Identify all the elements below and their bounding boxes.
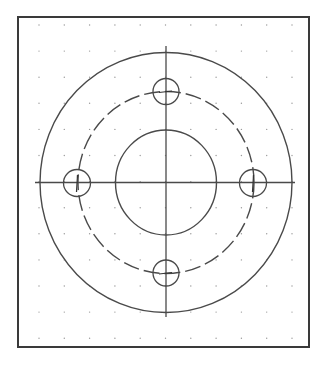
grid-dot: [291, 155, 292, 156]
grid-dot: [190, 129, 191, 130]
grid-dot: [38, 259, 39, 260]
grid-dot: [266, 24, 267, 25]
grid-dot: [64, 50, 65, 51]
grid-dot: [266, 155, 267, 156]
grid-dot: [38, 77, 39, 78]
grid-dot: [190, 285, 191, 286]
grid-dot: [190, 207, 191, 208]
grid-dot: [266, 338, 267, 339]
grid-dot: [215, 338, 216, 339]
grid-dot: [241, 311, 242, 312]
grid-dot: [190, 50, 191, 51]
grid-dot: [241, 24, 242, 25]
grid-dot: [165, 24, 166, 25]
grid-dot: [266, 285, 267, 286]
grid-dot: [291, 77, 292, 78]
grid-dot: [140, 155, 141, 156]
grid-dot: [140, 259, 141, 260]
grid-dot: [114, 103, 115, 104]
grid-dot: [89, 103, 90, 104]
grid-dot: [291, 24, 292, 25]
grid-dot: [114, 77, 115, 78]
grid-dot: [38, 233, 39, 234]
grid-dot: [241, 155, 242, 156]
grid-dot: [114, 155, 115, 156]
grid-dot: [241, 233, 242, 234]
grid-dot: [64, 233, 65, 234]
grid-dot: [64, 207, 65, 208]
grid-dot: [64, 129, 65, 130]
grid-dot: [64, 338, 65, 339]
grid-dot: [190, 338, 191, 339]
grid-dot: [291, 259, 292, 260]
grid-dot: [291, 129, 292, 130]
grid-dot: [89, 155, 90, 156]
grid-dot: [215, 207, 216, 208]
grid-dot: [266, 207, 267, 208]
grid-dot: [89, 77, 90, 78]
grid-dot: [114, 24, 115, 25]
grid-dot: [215, 103, 216, 104]
grid-dot: [291, 311, 292, 312]
grid-dot: [89, 233, 90, 234]
grid-dot: [38, 338, 39, 339]
grid-dot: [241, 259, 242, 260]
grid-dot: [215, 77, 216, 78]
grid-dot: [64, 155, 65, 156]
grid-dot: [266, 311, 267, 312]
grid-dot: [38, 50, 39, 51]
grid-dot: [114, 285, 115, 286]
grid-dot: [89, 259, 90, 260]
grid-dot: [165, 338, 166, 339]
grid-dot: [241, 207, 242, 208]
grid-dot: [38, 285, 39, 286]
grid-dot: [114, 338, 115, 339]
grid-dot: [215, 24, 216, 25]
grid-dot: [215, 259, 216, 260]
grid-dot: [140, 233, 141, 234]
grid-dot: [241, 129, 242, 130]
grid-dot: [64, 103, 65, 104]
grid-dot: [266, 233, 267, 234]
grid-dot: [64, 311, 65, 312]
grid-dot: [190, 233, 191, 234]
grid-dot: [140, 77, 141, 78]
grid-dot: [215, 155, 216, 156]
grid-dot: [140, 103, 141, 104]
grid-dot: [215, 50, 216, 51]
grid-dot: [140, 50, 141, 51]
grid-dot: [114, 311, 115, 312]
grid-dot: [291, 103, 292, 104]
grid-dot: [114, 129, 115, 130]
grid-dot: [291, 285, 292, 286]
grid-dot: [215, 311, 216, 312]
grid-dot: [38, 24, 39, 25]
grid-dot: [140, 285, 141, 286]
grid-dot: [89, 24, 90, 25]
grid-dot: [241, 103, 242, 104]
grid-dot: [114, 259, 115, 260]
grid-dot: [38, 311, 39, 312]
grid-dot: [241, 50, 242, 51]
grid-dot: [140, 207, 141, 208]
grid-dot: [89, 50, 90, 51]
grid-dot: [38, 155, 39, 156]
grid-dot: [114, 207, 115, 208]
grid-dot: [190, 311, 191, 312]
grid-dot: [89, 338, 90, 339]
grid-dot: [140, 24, 141, 25]
grid-dot: [190, 77, 191, 78]
grid-dot: [38, 207, 39, 208]
grid-dot: [266, 50, 267, 51]
grid-dot: [140, 311, 141, 312]
grid-dot: [64, 24, 65, 25]
grid-dot: [215, 129, 216, 130]
grid-dot: [89, 207, 90, 208]
grid-dot: [266, 129, 267, 130]
grid-dot: [266, 77, 267, 78]
grid-dot: [241, 338, 242, 339]
grid-dot: [291, 338, 292, 339]
grid-dot: [38, 129, 39, 130]
cad-drawing-canvas[interactable]: [0, 0, 327, 369]
grid-dot: [114, 233, 115, 234]
